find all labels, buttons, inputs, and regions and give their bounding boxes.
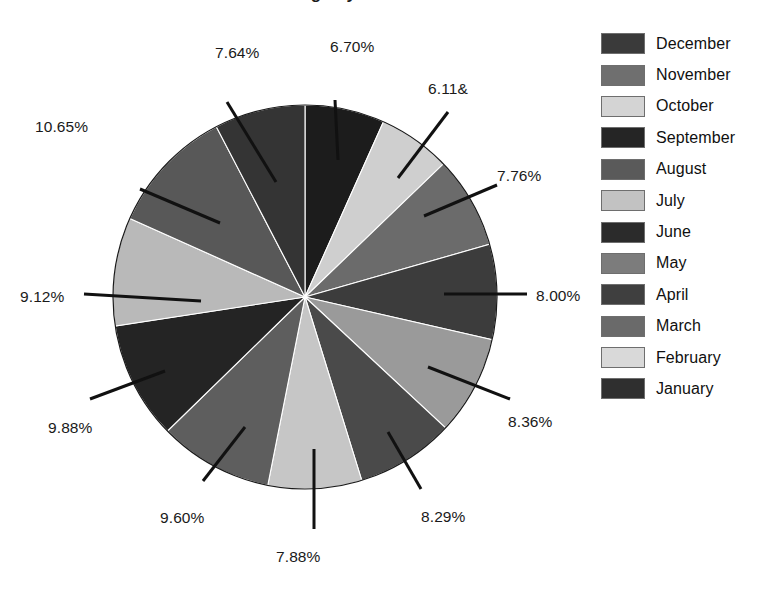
legend-label-march: March [656,317,701,335]
legend-label-december: December [656,35,731,53]
legend-label-may: May [656,254,687,272]
legend-item-march[interactable]: March [601,311,766,342]
legend-swatch-july [601,190,645,211]
legend-item-may[interactable]: May [601,248,766,279]
legend-swatch-april [601,284,645,305]
percent-label-july: 8.29% [421,508,465,526]
chart-legend: DecemberNovemberOctoberSeptemberAugustJu… [601,28,766,405]
legend-item-august[interactable]: August [601,154,766,185]
legend-swatch-may [601,253,645,274]
percent-label-september: 8.00% [536,287,580,305]
percent-label-december: 6.70% [330,38,374,56]
legend-item-november[interactable]: November [601,59,766,90]
pie-slices [113,105,497,489]
legend-item-october[interactable]: October [601,91,766,122]
legend-item-january[interactable]: January [601,373,766,404]
legend-swatch-october [601,96,645,117]
legend-item-september[interactable]: September [601,122,766,153]
legend-label-november: November [656,66,731,84]
percent-label-june: 7.88% [276,548,320,566]
chart-canvas: Sales Percentage by Month 6.70%6.11&7.76… [0,0,770,595]
legend-swatch-november [601,65,645,86]
legend-swatch-september [601,127,645,148]
legend-swatch-december [601,33,645,54]
percent-label-march: 9.12% [20,288,64,306]
legend-item-july[interactable]: July [601,185,766,216]
legend-swatch-january [601,378,645,399]
legend-item-june[interactable]: June [601,216,766,247]
percent-label-october: 7.76% [497,167,541,185]
legend-swatch-february [601,347,645,368]
legend-label-january: January [656,380,714,398]
percent-label-april: 9.88% [48,419,92,437]
legend-label-april: April [656,286,689,304]
legend-swatch-august [601,159,645,180]
percent-label-february: 10.65% [35,118,88,136]
percent-label-november: 6.11& [428,80,468,98]
legend-label-june: June [656,223,691,241]
legend-item-february[interactable]: February [601,342,766,373]
legend-swatch-march [601,316,645,337]
percent-label-august: 8.36% [508,413,552,431]
legend-swatch-june [601,222,645,243]
legend-label-february: February [656,349,721,367]
percent-label-january: 7.64% [215,44,259,62]
legend-label-october: October [656,97,714,115]
percent-label-may: 9.60% [160,509,204,527]
legend-label-september: September [656,129,735,147]
legend-item-april[interactable]: April [601,279,766,310]
legend-label-july: July [656,192,685,210]
legend-item-december[interactable]: December [601,28,766,59]
legend-label-august: August [656,160,706,178]
